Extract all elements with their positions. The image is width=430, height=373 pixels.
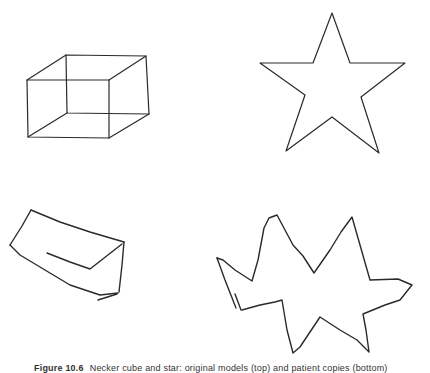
- model-cube-stroke: [66, 55, 149, 114]
- copy-cube-stroke: [10, 245, 118, 295]
- copy-cube-stroke: [47, 244, 122, 269]
- copy-star-stroke: [217, 215, 412, 353]
- figure-caption: Figure 10.6Necker cube and star: origina…: [34, 363, 388, 373]
- model-star-drawing: [260, 13, 405, 153]
- caption-label: Figure 10.6: [34, 363, 84, 373]
- model-star-stroke: [260, 13, 405, 153]
- model-cube-drawing: [27, 55, 149, 138]
- copy-star-stroke: [217, 258, 236, 308]
- copy-cube-drawing: [10, 210, 124, 300]
- model-cube-stroke: [27, 80, 109, 138]
- copy-cube-stroke: [10, 210, 31, 245]
- caption-text: Necker cube and star: original models (t…: [90, 363, 388, 373]
- model-cube-stroke: [27, 55, 66, 80]
- model-cube-stroke: [109, 56, 146, 80]
- model-cube-stroke: [109, 114, 149, 138]
- copy-cube-stroke: [31, 210, 124, 242]
- copy-star-drawing: [217, 215, 412, 353]
- model-cube-stroke: [28, 113, 67, 137]
- copy-cube-stroke: [119, 242, 124, 292]
